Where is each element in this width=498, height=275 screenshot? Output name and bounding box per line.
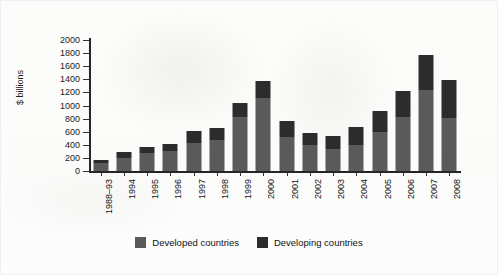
x-axis-tick-mark [240,172,241,176]
bar-segment-developing [256,81,271,97]
x-axis-tick-mark [124,172,125,176]
bar-group [415,40,438,171]
x-axis-tick-label: 2005 [384,179,393,199]
bar-segment-developed [279,137,294,171]
bar-segment-developed [395,117,410,171]
bar-segment-developed [186,143,201,171]
bar-group [229,40,252,171]
x-axis-tick-mark [287,172,288,176]
bar-group [112,40,135,171]
bar-segment-developing [93,160,108,163]
bar-segment-developing [326,136,341,148]
y-axis-tick-label: 1400 [60,75,80,84]
y-axis-tick-label: 800 [65,114,80,123]
bar-group [298,40,321,171]
bar-group [322,40,345,171]
x-axis-tick-label: 2007 [430,179,439,199]
bar-segment-developed [209,140,224,171]
bar-group [391,40,414,171]
bar-segment-developing [279,121,294,137]
legend-item: Developed countries [135,237,239,248]
x-axis-tick-mark [310,172,311,176]
y-axis-tick-label: 1800 [60,49,80,58]
x-axis-tick-label: 1995 [151,179,160,199]
x-axis-tick-label: 1988–93 [105,179,114,214]
legend-item: Developing countries [257,237,363,248]
bar-group [182,40,205,171]
legend-label: Developing countries [274,237,363,248]
y-axis-tick-label: 1200 [60,88,80,97]
chart-figure: $ billions 02004006008001000120014001600… [0,0,498,275]
x-axis-tick-mark [147,172,148,176]
bar-segment-developing [372,111,387,131]
bar-segment-developing [302,133,317,145]
bar-group [159,40,182,171]
x-axis-tick-label: 2006 [407,179,416,199]
bar-segment-developing [419,55,434,90]
bar-segment-developed [419,90,434,171]
x-axis-tick-mark [380,172,381,176]
chart-legend: Developed countriesDeveloping countries [1,237,497,248]
x-axis-tick-label: 2008 [453,179,462,199]
bar-group [438,40,461,171]
bar-segment-developing [349,127,364,145]
x-axis-tick-label: 1999 [244,179,253,199]
bar-segment-developing [209,128,224,140]
y-axis-title: $ billions [15,70,25,105]
bar-segment-developing [163,144,178,151]
legend-swatch-icon [257,237,268,248]
bar-group [368,40,391,171]
x-axis-tick-mark [170,172,171,176]
y-axis-tick-label: 2000 [60,36,80,45]
x-axis-tick-label: 1997 [198,179,207,199]
y-axis-tick-label: 1600 [60,62,80,71]
bar-segment-developed [93,163,108,171]
bar-segment-developing [442,80,457,118]
bar-group [205,40,228,171]
bar-segment-developing [233,103,248,117]
x-axis-tick-mark [403,172,404,176]
y-axis-tick-label: 0 [75,167,80,176]
bar-segment-developed [326,149,341,171]
y-axis-tick-label: 600 [65,127,80,136]
bar-segment-developing [395,91,410,117]
bar-segment-developed [233,117,248,171]
x-axis-tick-mark [449,172,450,176]
bar-group [252,40,275,171]
x-axis-tick-mark [194,172,195,176]
bar-group [345,40,368,171]
bar-segment-developed [140,153,155,171]
y-axis-tick-mark [83,171,89,172]
x-axis-tick-label: 1998 [221,179,230,199]
x-axis-tick-mark [217,172,218,176]
x-axis-tick-label: 1994 [128,179,137,199]
x-axis-tick-label: 2001 [291,179,300,199]
bar-segment-developing [186,131,201,143]
x-axis-line [89,171,461,173]
bar-segment-developed [116,158,131,171]
x-axis-tick-mark [426,172,427,176]
x-axis-tick-label: 2003 [337,179,346,199]
bar-segment-developed [302,145,317,171]
legend-swatch-icon [135,237,146,248]
bars-layer [89,40,461,171]
bar-segment-developed [442,118,457,171]
x-axis-tick-mark [333,172,334,176]
x-axis-tick-mark [263,172,264,176]
bar-segment-developed [372,132,387,171]
bar-segment-developing [116,152,131,158]
bar-group [275,40,298,171]
bar-group [89,40,112,171]
x-axis-tick-mark [356,172,357,176]
x-axis-tick-label: 2004 [360,179,369,199]
bar-group [136,40,159,171]
legend-label: Developed countries [152,237,239,248]
bar-segment-developed [256,98,271,171]
y-axis-tick-label: 1000 [60,101,80,110]
x-axis-tick-label: 1996 [174,179,183,199]
y-axis-tick-label: 200 [65,153,80,162]
x-axis-tick-label: 2002 [314,179,323,199]
x-axis-tick-mark [101,172,102,176]
x-axis-tick-label: 2000 [267,179,276,199]
y-axis-tick-label: 400 [65,140,80,149]
